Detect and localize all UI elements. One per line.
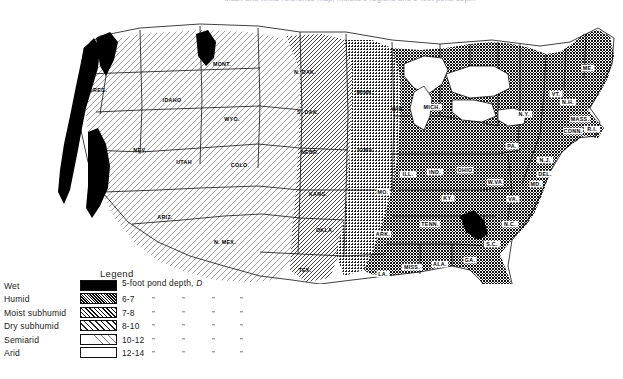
legend-row: Arid12-14"""" [0,347,300,360]
legend-ditto-mark: " [152,309,155,318]
region-semiarid [84,30,302,282]
state-label: VT. [552,91,561,97]
state-label: KY. [443,195,452,201]
legend-depth-range: 12-14 [122,348,144,358]
state-label: MINN. [357,89,374,95]
legend-row: Humid6-7"""" [0,293,300,306]
state-label: MO. [377,189,388,195]
state-label: ARIZ. [157,214,173,220]
legend-row: Moist subhumid7-8"""" [0,307,300,320]
state-label: LA. [378,271,388,277]
legend-ditto-mark: " [240,349,243,358]
map-svg: WASH.OREG.IDAHOMONT.WYO.NEV.CAL.UTAHCOLO… [0,4,623,284]
state-label: IND. [429,169,441,175]
state-label: N. DAK. [294,69,316,75]
state-label: GA. [465,257,476,263]
legend-ditto-mark: " [212,295,215,304]
state-label: CAL. [93,179,107,185]
legend-ditto-mark: " [182,322,185,331]
legend-depth-range: 8-10 [122,321,140,331]
state-label: COLO. [231,162,250,168]
state-label: N.Y. [518,111,529,117]
legend-depth-range: 7-8 [122,308,135,318]
legend-swatch-very-light [80,334,117,345]
legend-swatch-white [80,347,117,358]
state-label: N. MEX. [214,239,236,245]
us-moisture-map: WASH.OREG.IDAHOMONT.WYO.NEV.CAL.UTAHCOLO… [0,4,623,284]
state-label: TEX. [298,267,311,273]
state-label: OREG. [89,87,108,93]
legend-ditto-mark: " [212,309,215,318]
legend-ditto-mark: " [152,295,155,304]
state-label: N.H. [562,99,574,105]
state-label: WYO. [224,116,240,122]
legend-ditto-mark: " [212,322,215,331]
legend-swatch-light-hatch [80,320,117,331]
state-label: IOWA [357,147,373,153]
legend-ditto-mark: " [182,295,185,304]
legend-ditto-mark: " [240,322,243,331]
state-label: NEV. [133,147,146,153]
state-label: MONT. [213,61,231,67]
state-label: OKLA. [316,227,334,233]
legend-ditto-mark: " [152,349,155,358]
legend-row-label: Dry subhumid [4,321,59,331]
state-label: MASS. [571,116,590,122]
legend-ditto-mark: " [212,349,215,358]
state-label: PA. [507,143,517,149]
state-label: TENN. [421,221,439,227]
legend-row-label: Wet [4,281,20,291]
legend-ditto-mark: " [182,349,185,358]
legend-row-label: Moist subhumid [4,308,66,318]
figure-container: black and white reference map, moisture … [0,0,623,379]
state-label: N.J. [539,157,550,163]
legend-row: Semiarid10-12"""" [0,334,300,347]
legend-ditto-mark: " [152,336,155,345]
state-label: MD. [531,181,542,187]
legend-ditto-mark: " [182,336,185,345]
legend-row: Wet [0,280,300,293]
state-label: ARK. [376,231,391,237]
map-landmass [58,30,614,284]
legend-ditto-mark: " [182,309,185,318]
state-label: VA. [508,196,518,202]
state-label: N.C. [504,221,516,227]
state-label: IDAHO [163,97,182,103]
legend-row: Dry subhumid8-10"""" [0,320,300,333]
state-label: R.I. [587,126,597,132]
state-label: KANS. [309,191,327,197]
state-label: WIS. [392,106,405,112]
state-label: MICH. [424,104,441,110]
legend-row-label: Semiarid [4,335,39,345]
state-label: ILL. [403,171,414,177]
legend-ditto-mark: " [240,309,243,318]
state-label: ME. [583,65,594,71]
legend-row-label: Humid [4,294,30,304]
legend-depth-range: 6-7 [122,294,135,304]
state-label: CONN. [564,128,583,134]
state-label: WASH. [98,47,117,53]
state-label: S. DAK. [297,109,319,115]
legend-ditto-mark: " [212,336,215,345]
legend-swatch-dense-stipple [80,293,117,304]
legend-ditto-mark: " [152,322,155,331]
legend-ditto-mark: " [240,336,243,345]
legend-swatch-medium-hatch [80,307,117,318]
figure-caption: black and white reference map, moisture … [150,0,550,3]
state-label: MISS. [404,264,420,270]
state-label: UTAH [176,159,192,165]
legend-swatch-solid-black [80,280,117,291]
state-label: ALA. [433,261,447,267]
legend-row-label: Arid [4,348,20,358]
legend-depth-range: 10-12 [122,335,144,345]
state-label: W.VA [488,179,503,185]
state-label: S.C. [486,241,498,247]
map-legend: Legend 5-foot pond depth, D WetHumid6-7"… [0,268,300,372]
state-label: NEBR. [301,149,319,155]
state-label: OHIO [458,167,473,173]
legend-ditto-mark: " [240,295,243,304]
state-label: DEL. [538,171,552,177]
